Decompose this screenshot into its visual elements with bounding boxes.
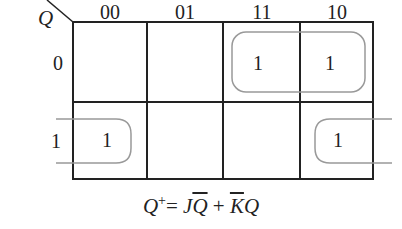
eq-equals: = xyxy=(166,194,183,218)
cell-0-11: 1 xyxy=(253,52,263,74)
row-header-0: 0 xyxy=(53,52,63,74)
group-loop-jqbar xyxy=(232,32,365,92)
row-header-1: 1 xyxy=(51,130,61,152)
eq-term2-q: Q xyxy=(244,194,259,218)
cell-1-00: 1 xyxy=(102,129,112,151)
group-loop-kbarq-left xyxy=(56,119,131,163)
group-loop-kbarq-right xyxy=(315,119,392,163)
eq-lhs-sup: + xyxy=(158,193,166,208)
kmap-grid xyxy=(73,22,373,179)
eq-plus: + xyxy=(208,194,230,218)
eq-lhs: Q xyxy=(143,194,158,218)
cell-0-10: 1 xyxy=(325,52,335,74)
col-header-11: 11 xyxy=(252,1,271,23)
row-variable-label: Q xyxy=(38,6,53,30)
col-header-01: 01 xyxy=(175,1,195,23)
cell-1-10: 1 xyxy=(333,129,343,151)
boolean-equation: Q+= JQ + KQ xyxy=(0,193,402,219)
col-header-00: 00 xyxy=(100,1,120,23)
eq-term2-kbar: K xyxy=(230,194,244,218)
eq-term1-qbar: Q xyxy=(192,194,207,218)
col-header-10: 10 xyxy=(327,1,347,23)
eq-term1-j: J xyxy=(183,194,192,218)
